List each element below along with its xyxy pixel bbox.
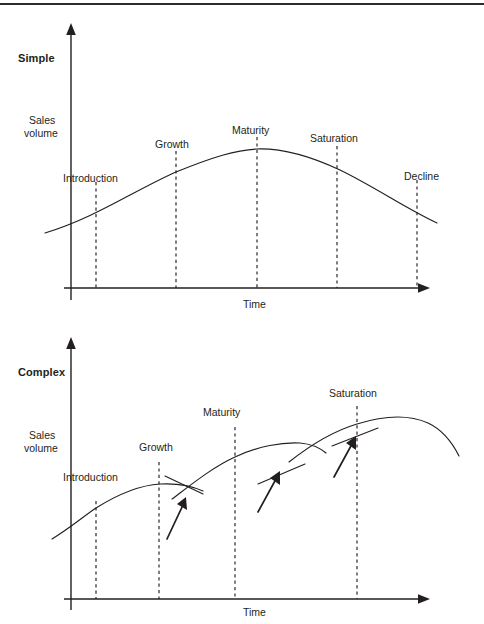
- simple-plot-svg: [0, 10, 484, 320]
- innovation-arrow-2: [258, 471, 280, 512]
- y-axis-arrowhead-complex: [66, 337, 76, 349]
- figure-simple: Simple Sales volume Introduction Growth …: [0, 10, 484, 320]
- lifecycle-curve-simple: [45, 149, 437, 233]
- x-axis-arrowhead-complex: [418, 594, 430, 604]
- tangent-line-2: [258, 464, 305, 484]
- x-axis-arrowhead-simple: [418, 283, 430, 293]
- innovation-arrow-1: [167, 497, 187, 539]
- diagram-page: Simple Sales volume Introduction Growth …: [0, 0, 484, 624]
- complex-plot-svg: [0, 322, 484, 624]
- innovation-arrow-3: [334, 436, 356, 477]
- header-rule: [0, 3, 484, 5]
- tangent-line-1: [165, 476, 203, 494]
- figure-complex: Complex Sales volume Introduction Growth…: [0, 322, 484, 624]
- lifecycle-curve-cycle3: [289, 417, 459, 462]
- y-axis-arrowhead-simple: [66, 23, 76, 35]
